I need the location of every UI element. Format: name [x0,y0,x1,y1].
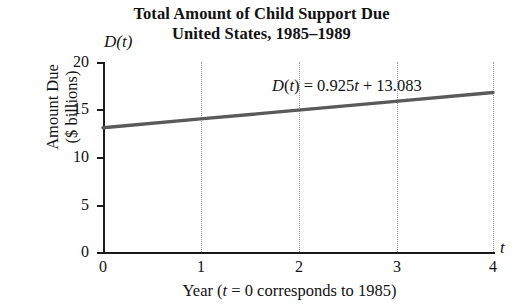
x-axis-title-pre: Year ( [183,281,223,300]
chart-title-line1: Total Amount of Child Support Due [133,4,389,23]
x-axis-variable-label: t [500,238,505,258]
x-tick-label-0: 0 [99,258,107,276]
x-tick-label-2: 2 [295,258,303,276]
chart-figure: Total Amount of Child Support Due United… [0,0,523,307]
y-tick-label-0: 0 [81,243,89,261]
data-series-line [103,62,495,254]
y-tick-label-20: 20 [73,53,89,71]
y-tick-label-10: 10 [73,148,89,166]
plot-area: 20 15 10 5 0 0 1 2 3 4 [103,62,495,254]
y-axis-title-line1: Amount Due [43,27,62,187]
x-axis-title-post: = 0 corresponds to 1985) [227,281,396,300]
y-tick-label-5: 5 [81,196,89,214]
y-tick-label-15: 15 [73,100,89,118]
x-tick-label-4: 4 [489,258,497,276]
x-tick-label-3: 3 [393,258,401,276]
x-axis-title: Year (t = 0 corresponds to 1985) [0,281,523,301]
y-axis-variable-label: D(t) [104,32,132,52]
x-tick-label-1: 1 [197,258,205,276]
